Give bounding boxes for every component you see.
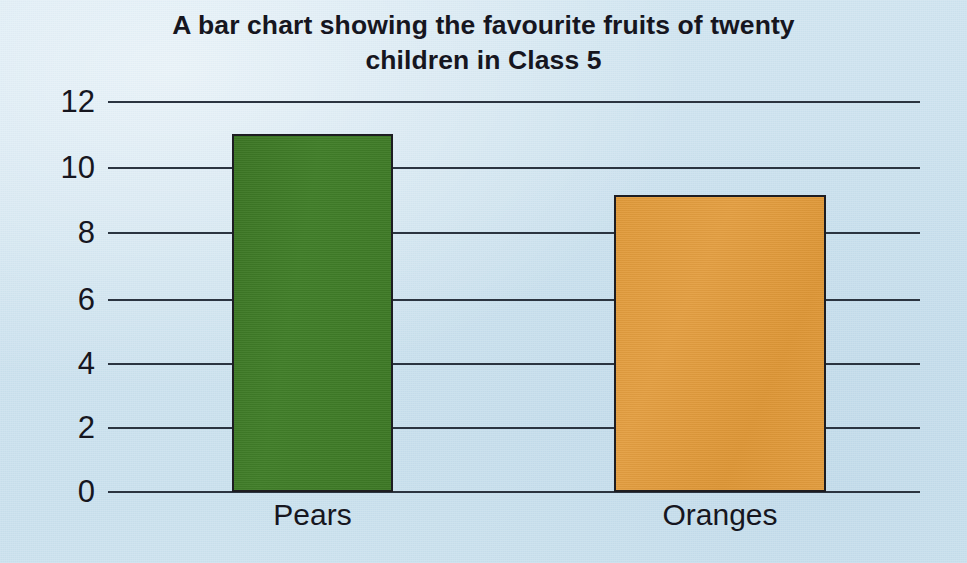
bar-oranges[interactable] xyxy=(614,195,826,492)
y-axis-tick-label-8: 8 xyxy=(15,217,95,248)
chart-page: A bar chart showing the favourite fruits… xyxy=(0,0,967,563)
bar-pears[interactable] xyxy=(232,134,393,492)
y-axis-tick-label-12: 12 xyxy=(15,86,95,117)
gridline-12 xyxy=(108,101,920,103)
y-axis-tick-label-6: 6 xyxy=(15,284,95,315)
y-axis-tick-label-2: 2 xyxy=(15,412,95,443)
plot-area: 0 2 4 6 8 10 12 Pears Oranges xyxy=(0,0,967,563)
x-axis-tick-label-oranges: Oranges xyxy=(614,500,826,530)
y-axis-tick-label-0: 0 xyxy=(15,476,95,507)
x-axis-tick-label-pears: Pears xyxy=(232,500,393,530)
y-axis-tick-label-10: 10 xyxy=(15,152,95,183)
gridline-10 xyxy=(108,167,920,169)
y-axis-tick-label-4: 4 xyxy=(15,348,95,379)
